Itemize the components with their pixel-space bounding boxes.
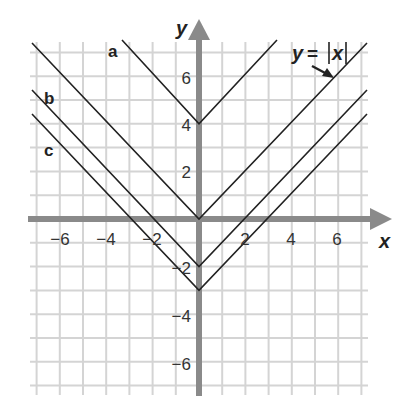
curve-c-label: c [44,141,53,160]
y-tick: 6 [182,69,191,88]
y-tick: −4 [172,307,191,326]
x-tick: 2 [240,230,249,249]
coordinate-plane: −6 −4 −2 2 4 6 6 4 2 −2 −4 −6 y x a b c … [0,0,409,414]
parent-label-x: x [331,42,344,64]
y-axis-arrow-icon [188,19,210,40]
x-axis-label: x [378,230,391,252]
y-axis-label: y [175,17,188,39]
x-tick: −6 [50,230,69,249]
y-tick: 2 [182,163,191,182]
curve-a-label: a [108,42,118,61]
curve-b-label: b [44,89,54,108]
y-tick: −2 [172,259,191,278]
x-axis-arrow-icon [370,208,392,230]
x-tick: −4 [96,230,115,249]
x-tick: 4 [286,230,295,249]
parent-label-eq: = [307,43,318,64]
y-tick: −6 [172,355,191,374]
x-tick: −2 [142,230,161,249]
y-tick: 4 [182,116,191,135]
x-tick: 6 [332,230,341,249]
parent-label-y: y [291,42,304,64]
